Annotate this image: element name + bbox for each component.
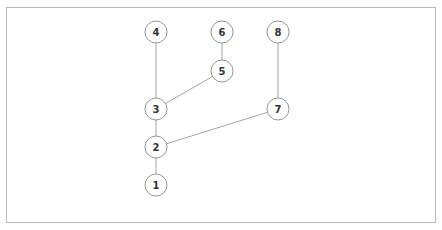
node-3[interactable]: 3: [145, 98, 167, 120]
node-8[interactable]: 8: [267, 21, 289, 43]
edges-layer: [156, 32, 278, 185]
node-label: 6: [219, 27, 226, 38]
node-label: 3: [153, 104, 160, 115]
node-label: 8: [275, 27, 282, 38]
nodes-layer: 12345678: [145, 21, 289, 196]
node-label: 7: [275, 104, 282, 115]
edge-2-7: [156, 109, 278, 147]
node-6[interactable]: 6: [211, 21, 233, 43]
node-label: 2: [153, 142, 160, 153]
node-2[interactable]: 2: [145, 136, 167, 158]
node-4[interactable]: 4: [145, 21, 167, 43]
node-1[interactable]: 1: [145, 174, 167, 196]
node-label: 4: [153, 27, 160, 38]
node-7[interactable]: 7: [267, 98, 289, 120]
tree-diagram: 12345678: [0, 0, 442, 230]
node-5[interactable]: 5: [211, 60, 233, 82]
node-label: 5: [219, 66, 226, 77]
node-label: 1: [153, 180, 160, 191]
